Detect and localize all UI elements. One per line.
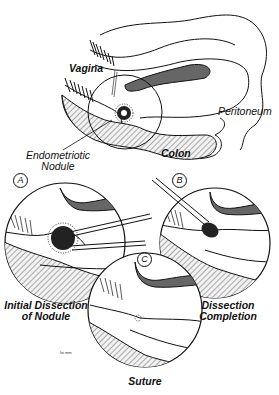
- label-vagina: Vagina: [69, 63, 103, 74]
- panel-c-caption: Suture: [118, 376, 172, 387]
- label-colon: Colon: [161, 148, 191, 159]
- panel-c-drawing: [85, 253, 205, 380]
- panel-b-letter: B: [172, 173, 187, 188]
- diagram-drawing: [0, 0, 279, 395]
- label-endometriotic-nodule: Endometriotic Nodule: [23, 150, 93, 172]
- panel-a-caption-line2: of Nodule: [0, 311, 92, 322]
- panel-b-caption-line2: Completion: [196, 311, 260, 322]
- label-nodule-line2: Nodule: [23, 161, 93, 172]
- panel-a-letter: A: [13, 173, 28, 188]
- endometriotic-nodule: [115, 104, 133, 122]
- vagina-lumen: [125, 64, 210, 91]
- panel-c-caption-line1: Suture: [118, 376, 172, 387]
- panel-c-letter: C: [137, 252, 152, 267]
- panel-a-caption: Initial Dissection of Nodule: [0, 300, 92, 322]
- panel-b-caption: Dissection Completion: [196, 300, 260, 322]
- artist-signature: lw mm: [60, 350, 72, 355]
- label-peritoneum: Peritoneum: [218, 106, 272, 117]
